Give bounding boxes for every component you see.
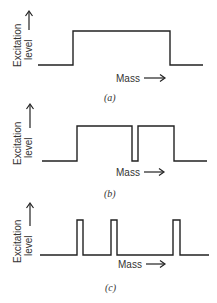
y-axis-arrow-icon — [27, 203, 34, 226]
y-axis-arrow-icon — [26, 11, 33, 30]
x-axis-arrow-icon — [144, 169, 164, 176]
panel-a: Excitation level Mass (a) — [12, 11, 203, 104]
x-axis-arrow-icon — [146, 261, 165, 268]
y-axis-label-line1: Excitation — [12, 24, 23, 67]
panel-caption: (b) — [104, 188, 116, 200]
x-axis-arrow-icon — [144, 75, 165, 82]
y-axis-label-line2: level — [23, 137, 34, 158]
y-axis-label-line1: Excitation — [12, 220, 23, 263]
y-axis-label-line1: Excitation — [12, 122, 23, 165]
panel-c: Excitation level Mass (c) — [12, 203, 209, 294]
panel-b: Excitation level Mass (b) — [12, 104, 207, 200]
excitation-curve — [40, 220, 209, 255]
x-axis-label: Mass — [116, 73, 140, 84]
y-axis-arrow-icon — [27, 104, 34, 128]
excitation-diagram: Excitation level Mass (a) Excitation lev… — [0, 0, 217, 303]
panel-caption: (c) — [105, 282, 117, 294]
excitation-curve — [42, 126, 207, 161]
panel-caption: (a) — [104, 92, 116, 104]
x-axis-label: Mass — [118, 259, 142, 270]
y-axis-label-line2: level — [23, 39, 34, 60]
excitation-curve — [38, 31, 203, 65]
x-axis-label: Mass — [116, 167, 140, 178]
y-axis-label-line2: level — [23, 235, 34, 256]
